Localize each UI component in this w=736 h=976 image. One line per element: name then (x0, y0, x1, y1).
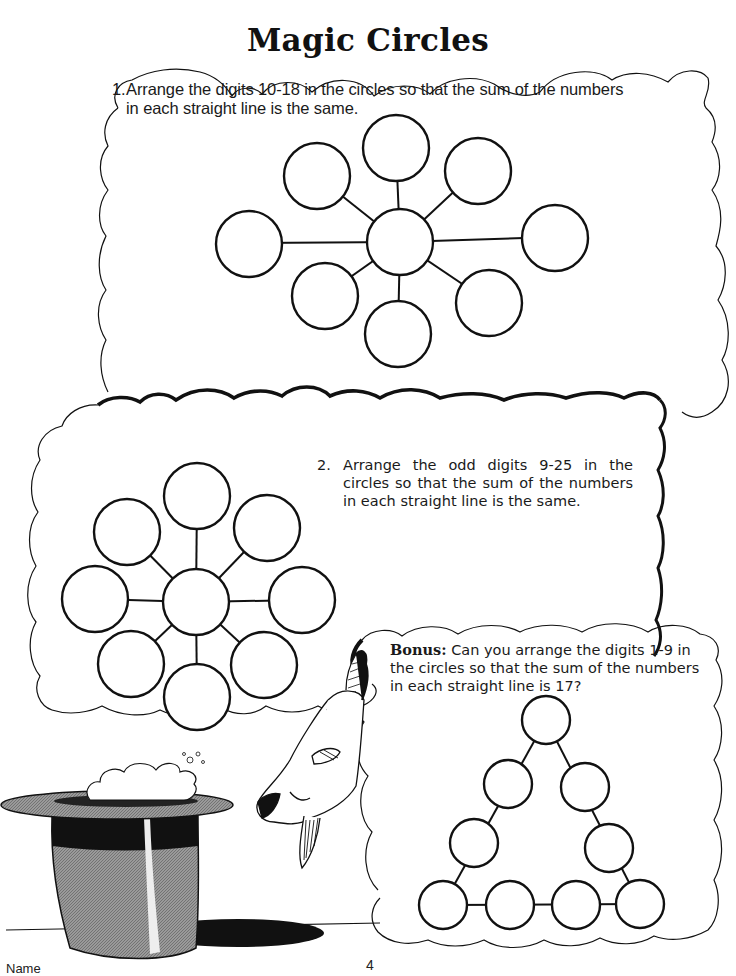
answer-circle[interactable] (363, 115, 429, 181)
answer-circle[interactable] (163, 569, 229, 635)
answer-circle[interactable] (522, 205, 588, 271)
answer-circle[interactable] (365, 301, 431, 367)
answer-circle[interactable] (561, 763, 609, 811)
answer-circle[interactable] (94, 499, 160, 565)
answer-circle[interactable] (486, 881, 534, 929)
bonus-diagram (443, 720, 640, 905)
answer-circle[interactable] (98, 631, 164, 697)
answer-circle[interactable] (292, 263, 358, 329)
page-number: 4 (366, 957, 374, 973)
bonus-label: Bonus: (390, 641, 447, 658)
answer-circle[interactable] (484, 760, 532, 808)
bonus-circles (419, 696, 664, 929)
answer-circle[interactable] (445, 138, 511, 204)
question-2-body: Arrange the odd digits 9-25 in the circl… (343, 457, 633, 509)
answer-circle[interactable] (164, 664, 230, 730)
bonus-question-text: Bonus: Can you arrange the digits 1-9 in… (390, 641, 716, 695)
question-1-text: 1. Arrange the digits 10-18 in the circl… (126, 80, 626, 118)
question-2-number: 2. (317, 456, 331, 474)
name-label: Name (6, 961, 41, 976)
question-1-body: Arrange the digits 10-18 in the circles … (126, 80, 623, 117)
puzzle-1-circles (216, 115, 588, 367)
answer-circle[interactable] (164, 463, 230, 529)
answer-circle[interactable] (234, 495, 300, 561)
answer-circle[interactable] (616, 880, 664, 928)
answer-circle[interactable] (456, 270, 522, 336)
answer-circle[interactable] (284, 143, 350, 209)
answer-circle[interactable] (450, 819, 498, 867)
answer-circle[interactable] (419, 881, 467, 929)
answer-circle[interactable] (62, 566, 128, 632)
question-1-number: 1. (112, 80, 126, 99)
answer-circle[interactable] (552, 881, 600, 929)
answer-circle[interactable] (269, 567, 335, 633)
answer-circle[interactable] (367, 209, 433, 275)
answer-circle[interactable] (216, 211, 282, 277)
puzzle-2-circles (62, 463, 335, 730)
question-2-text: 2. Arrange the odd digits 9-25 in the ci… (343, 456, 633, 510)
answer-circle[interactable] (522, 696, 570, 744)
answer-circle[interactable] (231, 632, 297, 698)
answer-circle[interactable] (585, 824, 633, 872)
